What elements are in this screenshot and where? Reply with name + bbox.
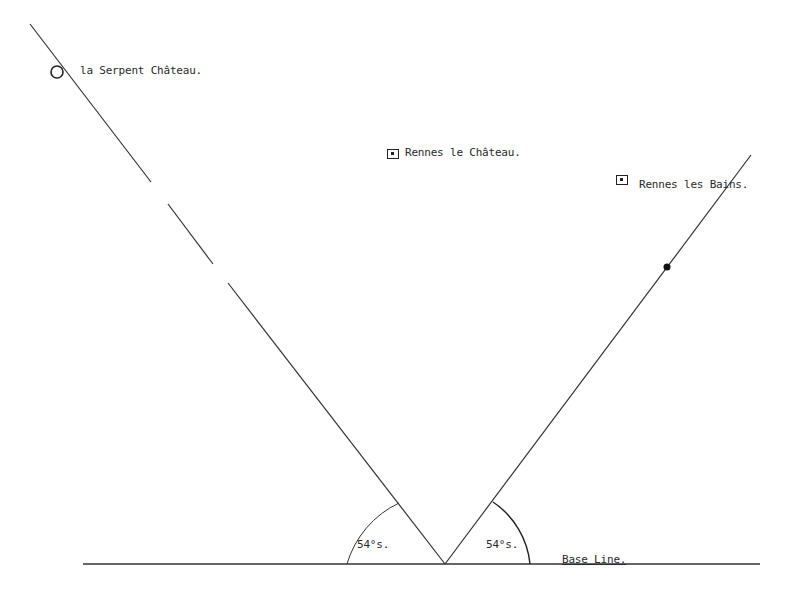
rennes-chateau-marker-icon [387,149,399,159]
point-dot-icon [664,264,671,271]
label-angle-left: 54°s. [357,538,389,551]
left-angle-arc [347,503,399,564]
label-serpent-chateau: la Serpent Château. [80,64,202,77]
label-angle-right: 54°s. [486,538,518,551]
serpent-circle-icon [51,66,63,78]
rennes-bains-marker-icon [616,175,628,185]
label-rennes-le-chateau: Rennes le Château. [405,146,521,159]
right-ray [445,155,751,564]
right-angle-arc [493,502,530,564]
label-rennes-les-bains: Rennes les Bains. [639,178,748,191]
left-ray [30,24,445,564]
diagram-canvas [0,0,803,597]
label-base-line: Base Line. [562,553,626,566]
